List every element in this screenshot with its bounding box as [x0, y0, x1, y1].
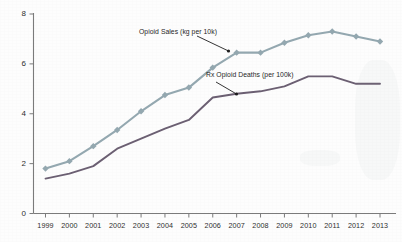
opioid-trend-chart: 02468 1999200020012002200320042005200620… — [0, 0, 402, 242]
data-point-marker — [42, 165, 48, 171]
y-axis-tick-label: 4 — [12, 110, 26, 118]
chart-marker-group — [42, 28, 383, 172]
deaths-annotation-arrow — [216, 82, 237, 94]
data-point-marker — [329, 28, 335, 34]
data-point-marker — [305, 32, 311, 38]
series-line-opioid-sales — [46, 31, 381, 168]
sales-annotation-arrow — [197, 36, 229, 51]
sales-annotation-arrow-head — [227, 49, 230, 52]
deaths-series-annotation-label: Rx Opioid Deaths (per 100k) — [206, 71, 293, 78]
deaths-annotation-arrow-head — [235, 92, 238, 95]
y-axis-tick-label: 8 — [12, 10, 26, 18]
data-point-marker — [377, 38, 383, 44]
data-point-marker — [281, 39, 287, 45]
chart-axes — [34, 13, 397, 214]
y-axis-ticks — [30, 14, 34, 214]
x-axis-tick-label: 2013 — [365, 222, 395, 229]
sales-series-annotation-label: Opioid Sales (kg per 10k) — [139, 28, 217, 35]
x-axis-ticks — [46, 214, 381, 218]
y-axis-tick-label: 6 — [12, 60, 26, 68]
series-line-rx-opioid-deaths — [46, 76, 381, 178]
y-axis-tick-label: 2 — [12, 160, 26, 168]
chart-series-group — [46, 31, 381, 178]
data-point-marker — [353, 33, 359, 39]
data-point-marker — [257, 49, 263, 55]
y-axis-tick-label: 0 — [12, 210, 26, 218]
chart-plot-area — [0, 0, 402, 242]
